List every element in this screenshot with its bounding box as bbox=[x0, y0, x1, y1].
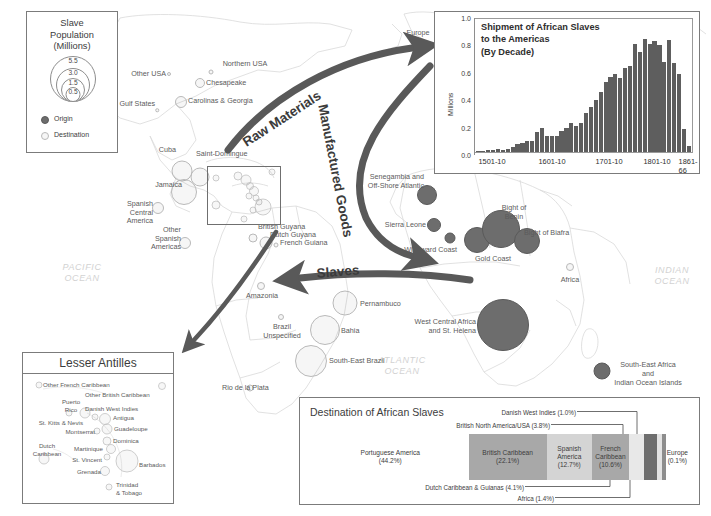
chart-ytick-0-8: 0.8 bbox=[461, 42, 471, 49]
antilles-label-danish-west-indies: Danish West Indies bbox=[85, 405, 138, 412]
chart-ytick-0-4: 0.4 bbox=[461, 97, 471, 104]
antilles-label-grenada: Grenada bbox=[77, 468, 101, 475]
antilles-label-antigua: Antigua bbox=[113, 414, 134, 421]
chart-bar bbox=[643, 39, 647, 152]
chart-bar bbox=[540, 128, 544, 152]
antilles-label-other-french-caribbean: Other French Caribbean bbox=[43, 381, 110, 388]
legend-origin-label: Origin bbox=[54, 115, 73, 122]
shipment-chart-panel: Millions 1.0 0.8 0.6 0.4 0.2 0.0 1501-10… bbox=[434, 11, 700, 174]
destination-panel: Destination of African Slaves Portuguese… bbox=[299, 397, 700, 505]
chart-bar bbox=[550, 136, 554, 152]
arrow-manufactured-goods bbox=[359, 66, 430, 256]
chart-xtick-1701-10: 1701-10 bbox=[595, 157, 622, 166]
chart-bar bbox=[657, 45, 661, 152]
chart-xtick-1801-10: 1801-10 bbox=[643, 157, 670, 166]
chart-bar bbox=[476, 151, 480, 152]
lesser-antilles-inset-panel: Lesser Antilles Other French Caribbean O… bbox=[22, 352, 174, 504]
chart-y-axis-label: Millions bbox=[447, 93, 454, 116]
chart-bar bbox=[662, 62, 666, 152]
chart-ytick-0-0: 0.0 bbox=[461, 152, 471, 159]
chart-bar bbox=[511, 147, 515, 152]
antilles-label-st-kitts-nevis: St. Kitts & Nevis bbox=[39, 419, 83, 426]
chart-bar bbox=[555, 136, 559, 152]
antilles-label-dominica: Dominica bbox=[113, 437, 139, 444]
legend-value-3-0: 3.0 bbox=[68, 69, 77, 76]
chart-bar bbox=[682, 129, 686, 152]
size-legend-panel: Slave Population (Millions) 5.5 3.0 1.5 … bbox=[26, 11, 118, 153]
antilles-label-guadeloupe: Guadeloupe bbox=[114, 425, 148, 432]
chart-xtick-1601-10: 1601-10 bbox=[538, 157, 565, 166]
antilles-map-outline bbox=[23, 353, 175, 505]
chart-bar bbox=[520, 143, 524, 152]
antilles-label-martinique: Martinique bbox=[74, 445, 103, 452]
legend-destination-dot bbox=[41, 132, 49, 140]
destination-leader-lines bbox=[300, 398, 701, 506]
legend-title: Slave Population (Millions) bbox=[27, 18, 117, 53]
chart-bar bbox=[687, 146, 691, 152]
chart-bar bbox=[623, 68, 627, 152]
chart-xtick-1501-10: 1501-10 bbox=[478, 157, 505, 166]
chart-bar bbox=[579, 123, 583, 152]
chart-bar bbox=[652, 41, 656, 152]
chart-bar bbox=[506, 149, 510, 152]
chart-bar bbox=[648, 44, 652, 152]
chart-bar bbox=[613, 74, 617, 152]
antilles-label-st-vincent: St. Vincent bbox=[72, 456, 102, 463]
chart-bar bbox=[564, 128, 568, 152]
chart-bar bbox=[486, 150, 490, 152]
legend-value-1-5: 1.5 bbox=[68, 79, 77, 86]
chart-bar bbox=[491, 150, 495, 152]
legend-destination-label: Destination bbox=[54, 131, 89, 138]
chart-ytick-0-6: 0.6 bbox=[461, 69, 471, 76]
chart-bar bbox=[574, 126, 578, 152]
infographic-root: PACIFICOCEAN ATLANTICOCEAN INDIANOCEAN E… bbox=[0, 0, 711, 516]
chart-bar bbox=[530, 141, 534, 152]
legend-value-0-5: 0.5 bbox=[68, 88, 77, 95]
chart-title: Shipment of African Slaves to the Americ… bbox=[481, 21, 600, 58]
chart-bar bbox=[481, 151, 485, 152]
legend-value-5-5: 5.5 bbox=[68, 57, 77, 64]
chart-bar bbox=[608, 77, 612, 152]
chart-xtick-1861-66: 1861-66 bbox=[679, 157, 698, 175]
antilles-label-barbados: Barbados bbox=[139, 461, 166, 468]
antilles-label-other-british-caribbean: Other British Caribbean bbox=[85, 391, 150, 398]
chart-bar bbox=[525, 141, 529, 152]
chart-bar bbox=[677, 74, 681, 152]
chart-bar bbox=[667, 40, 671, 152]
chart-bar bbox=[633, 44, 637, 152]
chart-bar bbox=[545, 136, 549, 152]
chart-bar bbox=[594, 100, 598, 152]
chart-bar bbox=[672, 63, 676, 152]
chart-bar bbox=[535, 132, 539, 152]
antilles-label-dutch-caribbean: DutchCaribbean bbox=[33, 442, 62, 457]
chart-bar bbox=[589, 107, 593, 152]
chart-bar bbox=[501, 150, 505, 152]
chart-bar bbox=[604, 82, 608, 152]
chart-bar bbox=[628, 66, 632, 152]
chart-bar bbox=[618, 78, 622, 152]
antilles-label-puerto-rico: PuertoRico bbox=[62, 398, 80, 413]
chart-bar bbox=[569, 123, 573, 152]
antilles-label-trinidad-tobago: Trinidad& Tobago bbox=[116, 481, 142, 496]
chart-bar bbox=[599, 92, 603, 152]
chart-bar bbox=[559, 131, 563, 152]
legend-origin-dot bbox=[41, 116, 49, 124]
chart-bar bbox=[515, 144, 519, 152]
chart-bar bbox=[584, 113, 588, 152]
chart-ytick-1-0: 1.0 bbox=[461, 15, 471, 22]
antilles-label-montserrat: Montserrat bbox=[65, 428, 95, 435]
chart-bar bbox=[496, 149, 500, 152]
chart-bar bbox=[638, 52, 642, 152]
arrow-antilles-inset-pointer bbox=[194, 232, 276, 340]
chart-ytick-0-2: 0.2 bbox=[461, 124, 471, 131]
